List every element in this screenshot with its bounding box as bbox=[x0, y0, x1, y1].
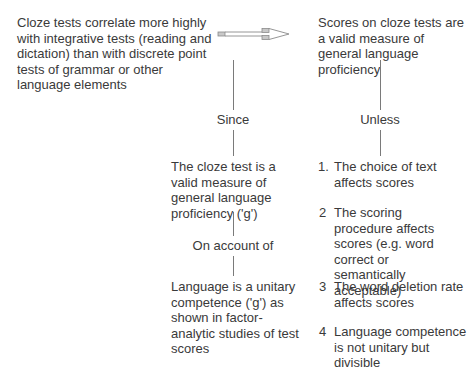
unless-label: Unless bbox=[340, 112, 420, 128]
rebuttal-number: 1. bbox=[318, 159, 329, 175]
conclusion-text: Scores on cloze tests are a valid measur… bbox=[318, 15, 468, 77]
rebuttal-number: 3 bbox=[319, 279, 326, 295]
connector-line bbox=[233, 130, 234, 156]
rebuttal-number: 2 bbox=[319, 205, 326, 221]
right-arrow-icon bbox=[216, 26, 292, 44]
backing-text: Language is a unitary competence ('g') a… bbox=[171, 279, 301, 357]
rebuttal-text: The choice of text affects scores bbox=[334, 159, 444, 190]
rebuttal-text: The word deletion rate affects scores bbox=[334, 279, 464, 310]
connector-line bbox=[233, 212, 234, 236]
warrant-text: The cloze test is a valid measure of gen… bbox=[171, 159, 301, 221]
connector-line bbox=[380, 60, 381, 110]
connector-line bbox=[233, 256, 234, 276]
rebuttal-text: Language competence is not unitary but d… bbox=[334, 324, 471, 371]
connector-line bbox=[380, 130, 381, 156]
rebuttal-number: 4 bbox=[319, 324, 326, 340]
since-label: Since bbox=[193, 112, 273, 128]
connector-line bbox=[233, 60, 234, 110]
on-account-of-label: On account of bbox=[173, 238, 293, 254]
data-claim-text: Cloze tests correlate more highly with i… bbox=[17, 15, 212, 93]
